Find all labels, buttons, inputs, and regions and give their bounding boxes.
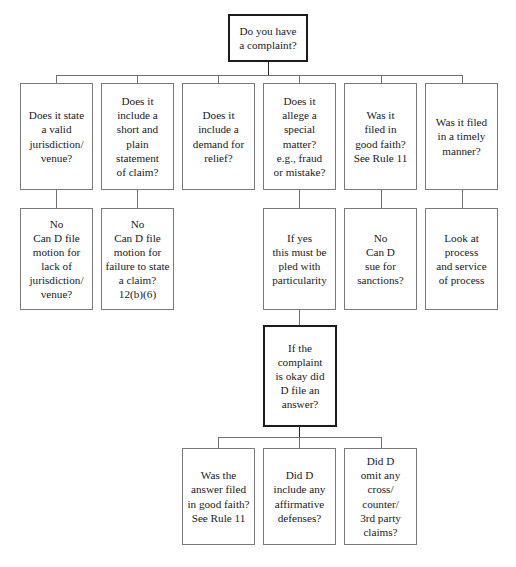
node-a-process-service-label: Look at process and service of process	[429, 231, 494, 287]
node-a-sanctions[interactable]: No Can D sue for sanctions?	[344, 208, 417, 310]
node-q-good-faith[interactable]: Was it filed in good faith? See Rule 11	[344, 83, 417, 190]
connector-row1-drop-6	[462, 75, 463, 83]
connector-r1c6-to-r2c5	[462, 190, 463, 208]
connector-r1c1-to-r2c1	[56, 190, 57, 208]
connector-row1-bus	[56, 75, 462, 76]
node-q-affirmative-defenses-label: Did D include any affirmative defenses?	[267, 468, 332, 524]
connector-row3-drop-1	[218, 437, 219, 448]
node-q-answer-good-faith[interactable]: Was the answer filed in good faith? See …	[182, 448, 255, 545]
node-a-sanctions-label: No Can D sue for sanctions?	[348, 231, 413, 287]
node-a-particularity-label: If yes this must be pled with particular…	[267, 231, 332, 287]
connector-r1c2-to-r2c2	[137, 190, 138, 208]
node-root-complaint-label: Do you have a complaint?	[233, 24, 303, 52]
node-a-process-service[interactable]: Look at process and service of process	[425, 208, 498, 310]
node-q-did-d-answer-label: If the complaint is okay did D file an a…	[268, 341, 332, 412]
node-q-demand-relief-label: Does it include a demand for relief?	[186, 108, 251, 164]
node-q-short-plain-statement[interactable]: Does it include a short and plain statem…	[101, 83, 174, 190]
node-q-special-matter-label: Does it allege a special matter? e.g., f…	[267, 94, 332, 179]
connector-particularity-to-answer	[299, 310, 300, 325]
node-q-affirmative-defenses[interactable]: Did D include any affirmative defenses?	[263, 448, 336, 545]
node-q-special-matter[interactable]: Does it allege a special matter? e.g., f…	[263, 83, 336, 190]
connector-answer-stem	[299, 427, 300, 437]
connector-row1-drop-5	[381, 75, 382, 83]
connector-row1-drop-3	[218, 75, 219, 83]
node-q-omitted-claims[interactable]: Did D omit any cross/ counter/ 3rd party…	[344, 448, 417, 545]
connector-r1c4-to-r2c3	[299, 190, 300, 208]
node-q-good-faith-label: Was it filed in good faith? See Rule 11	[348, 108, 413, 164]
node-q-did-d-answer[interactable]: If the complaint is okay did D file an a…	[263, 325, 337, 427]
page-top-clipped-text	[0, 0, 516, 7]
node-q-short-plain-statement-label: Does it include a short and plain statem…	[105, 94, 170, 179]
node-q-jurisdiction[interactable]: Does it state a valid jurisdiction/ venu…	[20, 83, 93, 190]
node-q-timely[interactable]: Was it filed in a timely manner?	[425, 83, 498, 190]
node-q-omitted-claims-label: Did D omit any cross/ counter/ 3rd party…	[348, 454, 413, 539]
node-a-motion-failure-state-claim[interactable]: No Can D file motion for failure to stat…	[101, 208, 174, 310]
connector-row3-drop-2	[299, 437, 300, 448]
connector-row1-drop-4	[299, 75, 300, 83]
node-q-timely-label: Was it filed in a timely manner?	[429, 115, 494, 157]
node-a-motion-jurisdiction[interactable]: No Can D file motion for lack of jurisdi…	[20, 208, 93, 310]
connector-row1-drop-1	[56, 75, 57, 83]
node-a-particularity[interactable]: If yes this must be pled with particular…	[263, 208, 336, 310]
connector-row3-drop-3	[381, 437, 382, 448]
node-a-motion-failure-state-claim-label: No Can D file motion for failure to stat…	[105, 217, 170, 302]
node-q-demand-relief[interactable]: Does it include a demand for relief?	[182, 83, 255, 190]
node-a-motion-jurisdiction-label: No Can D file motion for lack of jurisdi…	[24, 217, 89, 302]
connector-root-stem	[268, 62, 269, 75]
node-q-answer-good-faith-label: Was the answer filed in good faith? See …	[186, 468, 251, 524]
node-root-complaint[interactable]: Do you have a complaint?	[228, 14, 308, 62]
flowchart-canvas: Do you have a complaint? Does it state a…	[0, 0, 516, 567]
node-q-jurisdiction-label: Does it state a valid jurisdiction/ venu…	[24, 108, 89, 164]
connector-row1-drop-2	[137, 75, 138, 83]
connector-r1c5-to-r2c4	[381, 190, 382, 208]
